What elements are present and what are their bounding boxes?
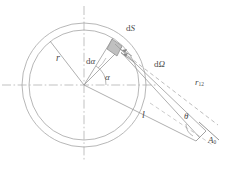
radius-line bbox=[50, 41, 84, 85]
cone-edge-upper bbox=[115, 44, 206, 131]
dS-sym: S bbox=[131, 23, 136, 33]
length-l-line bbox=[84, 85, 196, 141]
radius-label: r bbox=[56, 53, 60, 63]
lower-dashed-helper bbox=[150, 103, 214, 146]
r12-label: r12 bbox=[195, 78, 204, 87]
A0-sub: 0 bbox=[214, 139, 217, 145]
dalpha-label: dα bbox=[86, 57, 95, 66]
theta-label: θ bbox=[184, 112, 188, 121]
figure-canvas: r dα α dS dΩ r12 l θ A0 bbox=[0, 0, 239, 170]
surface-element-patch bbox=[107, 39, 122, 56]
theta-arc bbox=[186, 124, 193, 136]
length-l-label: l bbox=[142, 110, 145, 120]
surface-element-label: dS bbox=[126, 24, 135, 33]
r12-sub: 12 bbox=[199, 81, 204, 87]
dOmega-sym: Ω bbox=[159, 59, 166, 69]
solid-angle-label: dΩ bbox=[154, 60, 165, 69]
dalpha-sym: α bbox=[91, 56, 96, 66]
alpha-label: α bbox=[105, 73, 110, 82]
receiver-label: A0 bbox=[208, 136, 216, 145]
